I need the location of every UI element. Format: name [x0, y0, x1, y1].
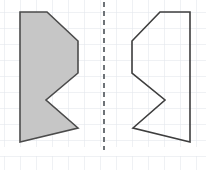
worksheet-canvas: [0, 0, 206, 170]
graph-paper-grid-lower: [0, 155, 206, 170]
reflection-figure: [0, 0, 206, 170]
